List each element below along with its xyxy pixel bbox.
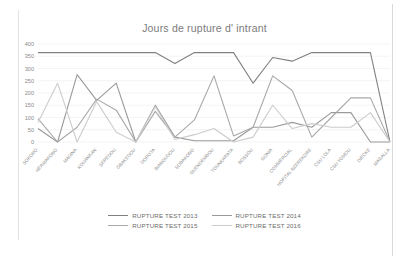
x-tick-label: CSU LOLA (313, 148, 333, 168)
legend-swatch-icon (108, 225, 128, 227)
legend-row-2: RUPTURE TEST 2015 RUPTURE TEST 2016 (108, 222, 301, 229)
x-tick-label: MADINA (62, 148, 78, 164)
chart-legend: RUPTURE TEST 2013 RUPTURE TEST 2014 RUPT… (0, 212, 409, 229)
legend-label: RUPTURE TEST 2015 (132, 222, 197, 229)
series-line (38, 76, 390, 142)
legend-swatch-icon (108, 215, 128, 217)
legend-label: RUPTURE TEST 2013 (132, 212, 197, 219)
x-tick-label: SOKORO (22, 148, 39, 166)
legend-swatch-icon (212, 215, 232, 217)
legend-item-2015[interactable]: RUPTURE TEST 2015 (108, 222, 197, 229)
line-chart-svg: 050100150200250300350400 (0, 38, 409, 150)
legend-item-2013[interactable]: RUPTURE TEST 2013 (108, 212, 197, 219)
x-tick-label: BIANOUDOU (153, 148, 175, 171)
legend-swatch-icon (212, 225, 232, 227)
y-tick-label: 400 (25, 41, 34, 47)
legend-item-2014[interactable]: RUPTURE TEST 2014 (212, 212, 301, 219)
legend-item-2016[interactable]: RUPTURE TEST 2016 (212, 222, 301, 229)
x-tick-label: MAGALLA (373, 148, 392, 167)
x-tick-label: GBAKEDOU (115, 148, 136, 170)
x-tick-label: SEREDOU (98, 148, 117, 168)
y-tick-label: 0 (31, 139, 34, 145)
chart-container: Jours de rupture d' intrant 050100150200… (0, 0, 409, 264)
x-tick-label: TOUNKARATA (210, 148, 235, 173)
x-axis-tick-labels: SOKOROHERMAKONOMADINAKOUANKANSEREDOUGBAK… (0, 148, 409, 210)
y-axis-tick-labels: 050100150200250300350400 (25, 41, 34, 145)
y-tick-label: 200 (25, 90, 34, 96)
y-tick-label: 350 (25, 53, 34, 59)
x-tick-label: HERMAKONO (34, 148, 58, 173)
y-tick-label: 300 (25, 66, 34, 72)
x-tick-label: DIECKE (356, 148, 371, 163)
legend-label: RUPTURE TEST 2014 (236, 212, 301, 219)
legend-row-1: RUPTURE TEST 2013 RUPTURE TEST 2014 (108, 212, 301, 219)
y-tick-label: 250 (25, 78, 34, 84)
y-tick-label: 150 (25, 102, 34, 108)
chart-title: Jours de rupture d' intrant (0, 22, 409, 34)
x-tick-label: CSU YOMOU (329, 148, 352, 172)
x-tick-label: DOROTA (139, 148, 156, 165)
x-tick-label: BOSSOU (237, 148, 254, 165)
series-lines (38, 53, 390, 142)
plot-area: 050100150200250300350400 (0, 38, 409, 150)
y-tick-label: 50 (28, 127, 34, 133)
x-tick-label: GONIA (260, 148, 274, 162)
x-tick-label: KOUANKAN (76, 148, 97, 170)
y-tick-label: 100 (25, 115, 34, 121)
x-tick-label: HOPITAL NZEREKORE (276, 148, 313, 187)
legend-label: RUPTURE TEST 2016 (236, 222, 301, 229)
